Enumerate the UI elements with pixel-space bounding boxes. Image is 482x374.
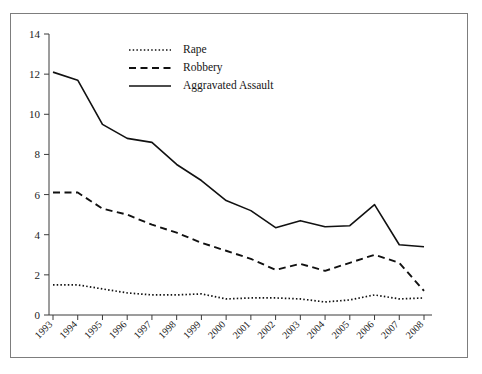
x-tick-label: 2003 <box>280 319 302 341</box>
x-tick-label: 2004 <box>305 319 327 341</box>
data-series-group <box>53 72 424 302</box>
x-tick-label: 2006 <box>354 319 376 341</box>
y-tick-label: 12 <box>29 68 40 80</box>
y-tick-label: 10 <box>29 108 41 120</box>
x-tick-label: 2000 <box>206 319 228 341</box>
y-tick-label: 2 <box>35 269 41 281</box>
y-tick-label: 0 <box>35 309 41 321</box>
x-axis-tick-labels: 1993199419951996199719981999200020012002… <box>32 319 425 341</box>
legend-label-robbery: Robbery <box>183 61 223 74</box>
x-axis: 1993199419951996199719981999200020012002… <box>32 315 432 341</box>
x-tick-label: 2007 <box>379 319 401 341</box>
series-line-aggravated-assault <box>53 72 424 247</box>
x-tick-label: 1998 <box>156 319 178 341</box>
chart-figure-frame: 02468101214 1993199419951996199719981999… <box>10 13 468 358</box>
x-tick-label: 1997 <box>131 319 153 341</box>
x-tick-label: 1995 <box>82 319 104 341</box>
series-line-robbery <box>53 193 424 291</box>
y-tick-label: 14 <box>29 28 41 40</box>
x-tick-label: 1993 <box>32 319 54 341</box>
x-tick-label: 1994 <box>57 319 79 341</box>
legend-label-aggravated-assault: Aggravated Assault <box>183 79 274 92</box>
y-axis: 02468101214 <box>29 28 49 321</box>
y-axis-ticks <box>44 34 49 315</box>
x-tick-label: 2008 <box>403 319 425 341</box>
x-tick-label: 1996 <box>107 319 129 341</box>
y-tick-label: 8 <box>35 148 41 160</box>
y-tick-label: 6 <box>35 189 41 201</box>
y-axis-tick-labels: 02468101214 <box>29 28 41 321</box>
x-tick-label: 2005 <box>329 319 351 341</box>
chart-legend: RapeRobberyAggravated Assault <box>129 43 274 92</box>
legend-label-rape: Rape <box>183 43 207 56</box>
x-tick-label: 2002 <box>255 319 277 341</box>
x-tick-label: 2001 <box>230 319 252 341</box>
x-tick-label: 1999 <box>181 319 203 341</box>
line-chart-canvas: 02468101214 1993199419951996199719981999… <box>11 14 467 357</box>
y-tick-label: 4 <box>35 229 41 241</box>
series-line-rape <box>53 285 424 302</box>
